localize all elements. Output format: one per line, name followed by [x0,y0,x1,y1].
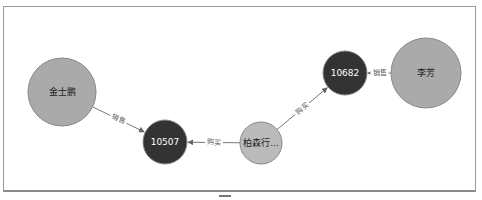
node-label: 柏森行... [243,137,279,148]
edge-label: 购买 [207,137,221,146]
edge-li-o10682[interactable]: 销售 [368,68,391,78]
edge-bai-o10507[interactable]: 购买 [188,137,240,147]
graph-node-li[interactable]: 李芳 [391,38,461,108]
edge-bai-o10682[interactable]: 购买 [277,88,327,130]
graph-node-bai[interactable]: 柏森行... [240,122,282,164]
node-label: 10682 [331,68,360,78]
graph-canvas: 销售购买购买销售 金士鹏10507柏森行...10682李芳 [0,0,482,200]
node-label: 金士鹏 [49,86,76,97]
graph-node-o10682[interactable]: 10682 [323,51,367,95]
node-label: 10507 [151,137,180,147]
graph-node-o10507[interactable]: 10507 [143,120,187,164]
edge-jin-o10507[interactable]: 销售 [93,107,145,132]
edge-label: 销售 [373,68,387,77]
graph-node-jin[interactable]: 金士鹏 [28,58,96,126]
figure-caption-mark [219,195,231,197]
node-label: 李芳 [417,67,435,78]
